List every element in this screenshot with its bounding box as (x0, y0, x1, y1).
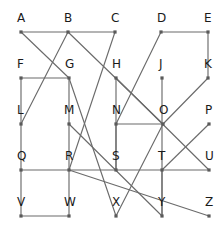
graph-edge (69, 170, 209, 216)
graph-vertex-dot (19, 214, 22, 217)
vertex-label-b: B (64, 12, 72, 24)
vertex-label-h: H (112, 58, 121, 70)
graph-vertex-dot (207, 168, 210, 171)
graph-vertex-dot (114, 76, 117, 79)
vertex-label-r: R (65, 150, 73, 162)
vertex-label-o: O (159, 104, 168, 116)
vertex-label-q: Q (17, 150, 26, 162)
vertex-label-m: M (64, 104, 74, 116)
graph-edge (21, 32, 69, 78)
vertex-label-k: K (204, 58, 212, 70)
graph-vertex-dot (66, 30, 69, 33)
vertex-label-u: U (205, 150, 214, 162)
vertex-label-s: S (112, 150, 120, 162)
vertex-label-a: A (17, 12, 25, 24)
graph-vertex-dot (207, 122, 210, 125)
graph-diagram-canvas: ABCDEFGHJKLMNOPQRSTUVWXYZ (0, 0, 224, 226)
vertex-label-t: T (158, 150, 165, 162)
vertex-label-d: D (157, 12, 166, 24)
graph-vertex-dot (19, 122, 22, 125)
vertex-label-p: P (205, 104, 212, 116)
graph-edge (69, 32, 115, 170)
graph-vertex-dot (160, 214, 163, 217)
vertex-label-f: F (17, 58, 24, 70)
graph-vertex-dot (114, 214, 117, 217)
graph-vertex-dot (19, 30, 22, 33)
graph-vertex-dot (161, 122, 164, 125)
vertex-label-n: N (112, 104, 121, 116)
vertex-label-c: C (111, 12, 119, 24)
vertex-label-y: Y (158, 196, 165, 208)
vertex-label-g: G (65, 58, 74, 70)
graph-vertex-dot (159, 30, 162, 33)
vertex-label-v: V (17, 196, 25, 208)
graph-vertex-dot (114, 122, 117, 125)
vertex-label-e: E (204, 12, 212, 24)
graph-vertex-dot (160, 76, 163, 79)
graph-vertex-dot (206, 30, 209, 33)
vertex-label-w: W (64, 196, 76, 208)
graph-vertex-dot (67, 214, 70, 217)
graph-vertex-dot (19, 168, 22, 171)
graph-vertex-dot (67, 168, 70, 171)
vertex-label-j: J (159, 58, 163, 70)
graph-vertex-dot (113, 30, 116, 33)
graph-vertex-dot (19, 76, 22, 79)
graph-vertex-dot (206, 76, 209, 79)
graph-edge (116, 32, 161, 124)
vertex-label-l: L (17, 104, 24, 116)
graph-vertex-dot (114, 168, 117, 171)
graph-vertex-dot (67, 122, 70, 125)
graph-vertex-dot (160, 168, 163, 171)
graph-vertex-dot (67, 76, 70, 79)
vertex-label-x: X (112, 196, 120, 208)
vertex-label-z: Z (205, 196, 213, 208)
graph-edge (163, 78, 208, 124)
graph-vertex-dot (207, 214, 210, 217)
